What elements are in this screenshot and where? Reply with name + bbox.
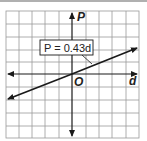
equation-callout: P = 0.43d (40, 40, 93, 64)
x-axis-label: d (129, 74, 137, 88)
equation-label: P = 0.43d (44, 42, 91, 54)
top-bar (0, 0, 147, 2)
coordinate-plane: P = 0.43d P d O (0, 0, 147, 141)
y-axis-label: P (77, 10, 86, 24)
origin-label: O (74, 75, 84, 89)
